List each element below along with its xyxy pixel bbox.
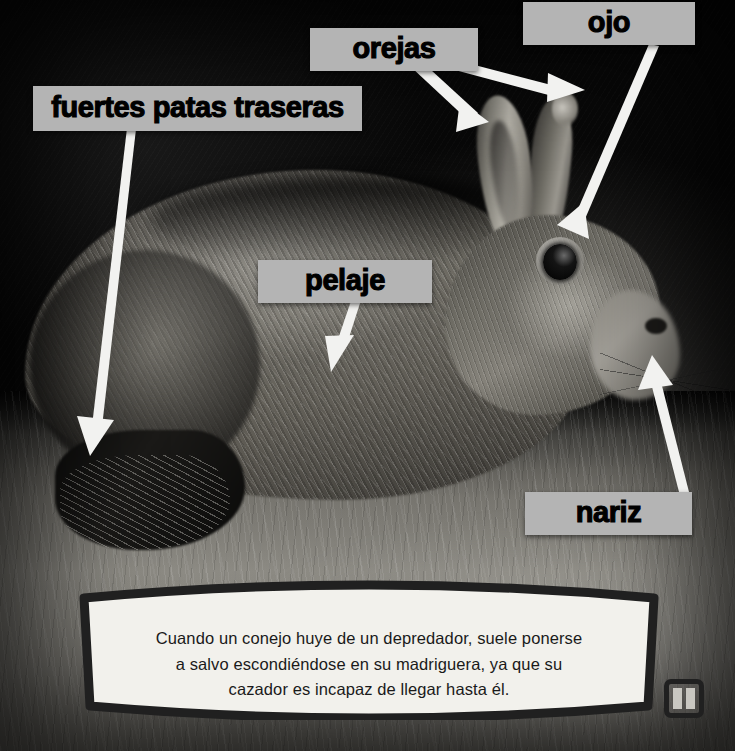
callout-label-text: orejas <box>352 34 435 63</box>
caption-line-1: Cuando un conejo huye de un depredador, … <box>118 626 620 652</box>
callout-label-text: fuertes patas traseras <box>51 93 344 122</box>
pause-button[interactable] <box>664 679 704 718</box>
callout-label-ojo[interactable]: ojo <box>523 2 695 45</box>
infographic-canvas: fuertes patas traseras orejas ojo pelaje… <box>0 0 735 751</box>
callout-label-orejas[interactable]: orejas <box>310 28 478 71</box>
caption-banner: Cuando un conejo huye de un depredador, … <box>78 580 660 720</box>
caption-text: Cuando un conejo huye de un depredador, … <box>118 626 620 703</box>
pause-icon-bar-left <box>673 688 682 709</box>
callout-label-fuertes-patas-traseras[interactable]: fuertes patas traseras <box>33 86 362 131</box>
callout-label-text: nariz <box>576 498 642 527</box>
caption-line-3: cazador es incapaz de llegar hasta él. <box>118 677 620 703</box>
callout-label-pelaje[interactable]: pelaje <box>258 260 432 303</box>
callout-label-nariz[interactable]: nariz <box>525 492 692 535</box>
callout-label-text: pelaje <box>305 266 385 295</box>
caption-line-2: a salvo escondiéndose en su madriguera, … <box>118 652 620 678</box>
callout-label-text: ojo <box>588 8 630 37</box>
pause-icon-bar-right <box>686 688 695 709</box>
